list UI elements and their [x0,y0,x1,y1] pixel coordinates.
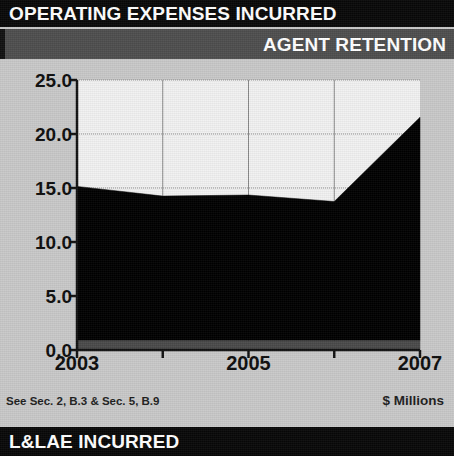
y-axis-tick-label: 20.0 [10,125,72,144]
y-axis-tick-label: 15.0 [10,179,72,198]
footnote-source: See Sec. 2, B.3 & Sec. 5, B.9 [6,396,159,408]
subtitle-bar: AGENT RETENTION [0,29,454,59]
y-axis-tick-label: 5.0 [10,287,72,306]
y-axis-labels: 0.05.010.015.020.025.0 [0,59,72,359]
x-axis-tick-label: 2005 [226,353,271,373]
chart-area: 0.05.010.015.020.025.0 200320052007 See … [0,59,454,427]
x-axis-tick-label: 2003 [55,353,100,373]
y-axis-tick-label: 25.0 [10,71,72,90]
footer-bar: L&LAE INCURRED [0,427,454,456]
area-series-base-band [77,341,420,350]
title-bar: OPERATING EXPENSES INCURRED [0,0,454,27]
y-axis-tick-label: 10.0 [10,233,72,252]
chart-page: OPERATING EXPENSES INCURRED AGENT RETENT… [0,0,454,456]
page-title: OPERATING EXPENSES INCURRED [9,4,337,23]
footer-title: L&LAE INCURRED [9,432,179,451]
x-axis-tick-label: 2007 [398,353,443,373]
chart-subtitle: AGENT RETENTION [263,35,446,54]
footnote-units: $ Millions [382,394,444,408]
